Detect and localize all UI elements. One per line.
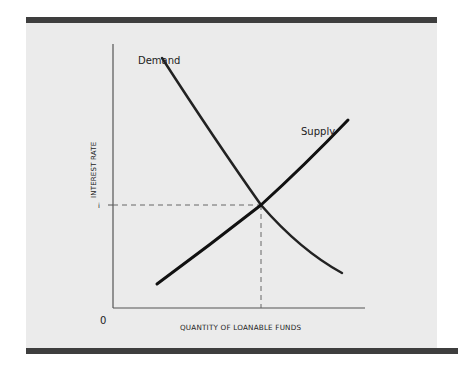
demand-label: Demand xyxy=(138,55,180,66)
demand-curve xyxy=(162,58,342,273)
y-axis-label: INTEREST RATE xyxy=(90,142,98,198)
origin-label: 0 xyxy=(100,315,106,326)
x-axis-label: QUANTITY OF LOANABLE FUNDS xyxy=(180,323,301,332)
supply-demand-chart: Demand Supply i 0 QUANTITY OF LOANABLE F… xyxy=(0,0,458,366)
supply-label: Supply xyxy=(301,126,335,137)
y-tick-label: i xyxy=(98,202,100,210)
